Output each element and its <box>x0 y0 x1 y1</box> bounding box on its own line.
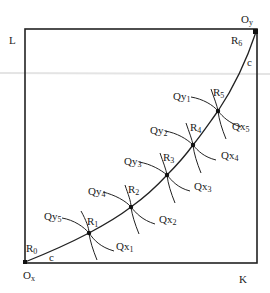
label-r5: R5 <box>213 86 224 100</box>
label-qx1: Qx1 <box>116 240 133 254</box>
label-qy4: Qy4 <box>88 185 105 199</box>
edgeworth-box-diagram: L K Ox Oy c c R0 R1 R2 R3 R4 R5 R6 Qy5 Q… <box>0 0 270 293</box>
label-qx2: Qx2 <box>159 213 176 227</box>
label-qy3: Qy3 <box>124 155 141 169</box>
label-r4: R4 <box>190 121 201 135</box>
label-r2: R2 <box>128 183 139 197</box>
contract-curve <box>25 32 256 262</box>
label-qx5: Qx5 <box>232 120 249 134</box>
point-r5 <box>216 109 220 113</box>
label-qy5: Qy5 <box>44 210 61 224</box>
label-ox: Ox <box>23 269 35 283</box>
point-r1 <box>87 231 91 235</box>
label-oy: Oy <box>241 13 253 27</box>
label-qx3: Qx3 <box>194 180 211 194</box>
label-qy1: Qy1 <box>173 90 190 104</box>
label-qy2: Qy2 <box>150 124 167 138</box>
label-qx4: Qx4 <box>221 149 238 163</box>
curve-label-c-top: c <box>247 56 252 68</box>
edgeworth-box-frame <box>25 29 257 263</box>
scan-artifact-line <box>0 73 270 74</box>
label-L: L <box>9 34 16 46</box>
point-r2 <box>129 205 133 209</box>
label-r6: R6 <box>231 34 242 48</box>
point-r3 <box>165 173 169 177</box>
point-r4 <box>191 143 195 147</box>
label-r0: R0 <box>26 242 37 256</box>
curve-label-c-bottom: c <box>49 251 54 263</box>
point-r0-ox <box>23 260 27 264</box>
label-r1: R1 <box>87 215 98 229</box>
point-r6-oy <box>253 29 258 34</box>
label-r3: R3 <box>163 151 174 165</box>
label-K: K <box>239 273 247 285</box>
